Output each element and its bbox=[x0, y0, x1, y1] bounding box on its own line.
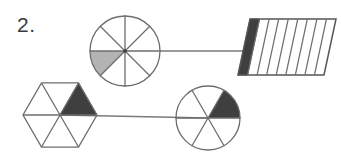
spoke-300deg bbox=[60, 115, 79, 147]
strip-divider-3 bbox=[267, 19, 279, 75]
fraction-model-circle-sixths bbox=[176, 86, 240, 150]
parallelogram-ninths-dividers bbox=[248, 19, 327, 75]
strip-divider-2 bbox=[257, 19, 269, 75]
strip-divider-5 bbox=[286, 19, 298, 75]
fraction-models-figure bbox=[0, 0, 341, 162]
fraction-model-hexagon-sixths bbox=[23, 83, 97, 147]
shaded-sector-circle-eighths bbox=[90, 51, 125, 76]
circle-eighths-center-dot bbox=[123, 49, 126, 52]
fraction-model-circle-eighths bbox=[90, 16, 160, 86]
shaded-triangle-hexagon-sixths bbox=[60, 83, 97, 115]
shaded-sector-circle-sixths bbox=[208, 90, 240, 118]
strip-divider-4 bbox=[276, 19, 288, 75]
strip-divider-8 bbox=[314, 19, 326, 75]
strip-divider-6 bbox=[295, 19, 307, 75]
strip-divider-7 bbox=[305, 19, 317, 75]
spoke-240deg bbox=[42, 115, 61, 147]
hexagon-sixths-dividers bbox=[23, 83, 97, 147]
fraction-model-parallelogram-ninths bbox=[238, 19, 336, 75]
spoke-120deg bbox=[42, 83, 61, 115]
worksheet-problem-figure: 2. bbox=[0, 0, 341, 162]
